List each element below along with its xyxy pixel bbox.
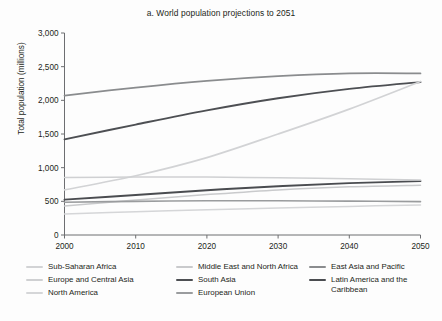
y-tick-labels: 05001,0001,5002,0002,5003,000 — [38, 29, 59, 240]
y-tick-label: 3,000 — [38, 29, 59, 38]
legend-swatch-icon — [309, 279, 326, 281]
legend-item[interactable]: European Union — [176, 288, 326, 298]
legend-swatch-icon — [176, 292, 193, 294]
y-tick-label: 1,500 — [38, 130, 59, 139]
legend-swatch-icon — [176, 279, 193, 281]
legend-item-label: European Union — [198, 288, 326, 298]
y-tick-label: 0 — [54, 231, 59, 240]
series-line-latin-america-and-the-caribbean — [65, 181, 421, 200]
legend-item-label: East Asia and Pacific — [331, 262, 436, 272]
y-tick-label: 1,000 — [38, 164, 59, 173]
legend-swatch-icon — [26, 279, 43, 281]
series-line-north-america — [65, 205, 421, 214]
chart-figure: a. World population projections to 2051 … — [0, 0, 442, 321]
legend-item-label: Middle East and North Africa — [198, 262, 326, 272]
legend-column-3: East Asia and PacificLatin America and t… — [309, 262, 436, 298]
legend-item-label: Latin America and the Caribbean — [331, 275, 436, 294]
series-line-european-union — [65, 201, 421, 202]
x-tick-label: 2050 — [411, 242, 430, 251]
series-lines — [65, 73, 421, 214]
x-tick-label: 2030 — [269, 242, 288, 251]
legend-item-label: Europe and Central Asia — [48, 275, 176, 285]
legend-item-label: South Asia — [198, 275, 326, 285]
y-tick-label: 2,000 — [38, 96, 59, 105]
series-line-sub-saharan-africa — [65, 81, 421, 189]
series-line-east-asia-and-pacific — [65, 73, 421, 95]
x-tick-label: 2010 — [127, 242, 146, 251]
legend-item[interactable]: Europe and Central Asia — [26, 275, 176, 285]
legend-swatch-icon — [309, 266, 326, 268]
legend-item[interactable]: South Asia — [176, 275, 326, 285]
legend-swatch-icon — [26, 292, 43, 294]
legend-item[interactable]: East Asia and Pacific — [309, 262, 436, 272]
x-tick-labels: 200020102020203020402050 — [55, 242, 430, 251]
x-tick-label: 2020 — [198, 242, 217, 251]
y-tick-label: 2,500 — [38, 63, 59, 72]
legend-item[interactable]: Latin America and the Caribbean — [309, 275, 436, 294]
legend-item[interactable]: Middle East and North Africa — [176, 262, 326, 272]
legend-column-1: Sub-Saharan AfricaEurope and Central Asi… — [26, 262, 176, 301]
x-tick-label: 2000 — [55, 242, 74, 251]
legend-swatch-icon — [26, 266, 43, 268]
series-line-south-asia — [65, 82, 421, 139]
legend-item[interactable]: North America — [26, 288, 176, 298]
x-tick-label: 2040 — [340, 242, 359, 251]
y-tick-label: 500 — [45, 197, 59, 206]
plot-area: 05001,0001,5002,0002,5003,000 2000201020… — [0, 0, 442, 260]
legend-item-label: Sub-Saharan Africa — [48, 262, 176, 272]
legend-swatch-icon — [176, 266, 193, 268]
legend-item[interactable]: Sub-Saharan Africa — [26, 262, 176, 272]
axes — [61, 33, 421, 239]
legend-item-label: North America — [48, 288, 176, 298]
legend-column-2: Middle East and North AfricaSouth AsiaEu… — [176, 262, 326, 301]
